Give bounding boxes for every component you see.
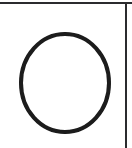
circle-shape xyxy=(17,26,112,136)
right-border-rule xyxy=(125,2,127,148)
figure-panel: Circle Unfilled circular outline centere… xyxy=(0,0,132,148)
circle-svg xyxy=(17,26,112,136)
circle-outline xyxy=(21,34,109,132)
top-border-rule xyxy=(0,2,132,4)
drawing-plate xyxy=(0,4,125,148)
